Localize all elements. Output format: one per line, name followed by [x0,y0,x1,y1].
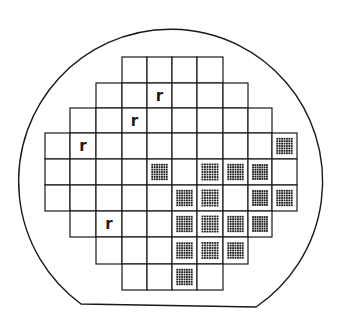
die-cell [147,133,172,159]
die-cell [272,159,297,185]
die-border [172,57,197,83]
dot-pattern-icon [252,164,268,180]
die-cell [147,108,172,133]
die-cell [223,237,248,264]
die-cell [223,211,248,237]
die-border [147,237,172,264]
die-cell [96,185,122,211]
dot-pattern-icon [202,242,219,259]
die-border [223,185,248,211]
die-cell [223,108,248,133]
die-cell [248,159,272,185]
die-cell [172,185,197,211]
die-border [70,108,96,133]
die-cell [122,185,147,211]
die-border [223,133,248,159]
die-cell: r [147,83,172,108]
die-border [147,185,172,211]
die-cell [223,159,248,185]
die-border [122,159,147,185]
die-cell [45,159,70,185]
die-grid: rrrr [45,57,297,290]
die-cell [248,185,272,211]
die-mark-r: r [156,87,164,105]
die-cell: r [96,211,122,237]
die-border [122,264,147,290]
die-border [96,83,122,108]
die-cell [172,83,197,108]
dot-pattern-icon [227,216,243,232]
die-cell [70,108,96,133]
die-cell [172,108,197,133]
die-border [172,108,197,133]
die-border [172,159,197,185]
die-cell: r [122,108,147,133]
dot-pattern-icon [227,242,243,258]
die-border [122,57,147,83]
dot-pattern-icon [151,164,167,180]
wafer-map-figure: rrrr [0,0,339,325]
die-border [70,211,96,237]
die-border [147,264,172,290]
die-cell [197,133,223,159]
dot-pattern-icon [276,138,292,154]
die-cell [223,133,248,159]
die-cell [147,237,172,264]
die-border [147,57,172,83]
die-cell [223,185,248,211]
die-mark-r: r [105,215,113,233]
die-cell [96,83,122,108]
die-cell [272,133,297,159]
die-border [147,133,172,159]
die-cell [197,264,223,290]
die-cell [248,211,272,237]
die-cell [172,211,197,237]
die-border [197,57,223,83]
dot-pattern-icon [202,190,219,207]
die-border [147,108,172,133]
dot-pattern-icon [176,269,192,285]
die-border [248,108,272,133]
die-cell [70,211,96,237]
die-border [96,159,122,185]
die-cell [197,108,223,133]
die-border [147,211,172,237]
die-cell [96,159,122,185]
die-mark-r: r [79,137,87,155]
die-cell [122,57,147,83]
die-border [45,133,70,159]
die-cell [122,133,147,159]
die-border [96,237,122,264]
die-cell [122,211,147,237]
die-cell [70,185,96,211]
die-cell [96,133,122,159]
die-cell [147,185,172,211]
die-border [197,264,223,290]
die-border [70,185,96,211]
die-cell [172,159,197,185]
die-cell [172,133,197,159]
die-border [96,108,122,133]
die-mark-r: r [131,112,139,130]
die-cell [172,264,197,290]
die-border [272,159,297,185]
dot-pattern-icon [176,242,192,258]
die-border [197,108,223,133]
die-cell [147,264,172,290]
die-border [172,83,197,108]
dot-pattern-icon [176,190,192,206]
die-cell [197,159,223,185]
die-cell [122,159,147,185]
die-cell [223,83,248,108]
die-cell [45,133,70,159]
die-border [122,133,147,159]
die-border [96,185,122,211]
die-border [70,159,96,185]
die-border [197,83,223,108]
die-cell [122,264,147,290]
die-border [45,159,70,185]
die-cell [197,57,223,83]
dot-pattern-icon [252,190,268,206]
die-cell [45,185,70,211]
die-border [122,211,147,237]
